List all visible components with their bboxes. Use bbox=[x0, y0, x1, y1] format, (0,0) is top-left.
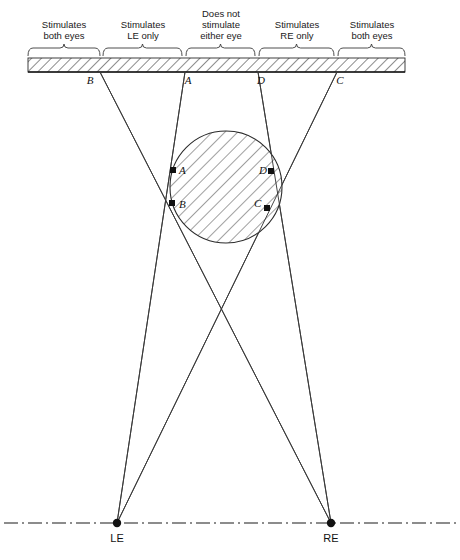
occluder-point-label-C: C bbox=[254, 197, 262, 209]
occluder-point-label-D: D bbox=[258, 164, 267, 176]
zone-5-label-line1: Stimulates bbox=[350, 19, 395, 30]
zone-4-label-line2: RE only bbox=[280, 30, 314, 41]
occluder-point-dot-A bbox=[170, 167, 176, 173]
screen-point-label-C: C bbox=[336, 74, 344, 86]
brace-zone-4 bbox=[259, 44, 334, 56]
eye-node-LE bbox=[113, 519, 121, 527]
brace-zone-5 bbox=[338, 44, 405, 56]
zone-3-label-line3: either eye bbox=[200, 30, 242, 41]
zone-2-label-line2: LE only bbox=[127, 30, 159, 41]
eye-label-RE: RE bbox=[323, 532, 338, 544]
zone-brace-group bbox=[28, 44, 405, 56]
sight-line-LE-to-A bbox=[117, 72, 185, 523]
zone-5-label-line2: both eyes bbox=[351, 30, 392, 41]
zone-2-label-line1: Stimulates bbox=[121, 19, 166, 30]
screen-point-label-B: B bbox=[87, 74, 94, 86]
brace-zone-2 bbox=[103, 44, 182, 56]
screen-point-group: BADC bbox=[87, 74, 345, 86]
eye-node-RE bbox=[327, 519, 335, 527]
brace-zone-3 bbox=[186, 44, 255, 56]
occluder-disc bbox=[170, 131, 282, 243]
zone-3-label-line2: stimulate bbox=[202, 19, 240, 30]
diagram-svg: Stimulatesboth eyesStimulatesLE onlyDoes… bbox=[0, 0, 460, 560]
zone-label-group: Stimulatesboth eyesStimulatesLE onlyDoes… bbox=[42, 8, 395, 41]
occluder-point-dot-D bbox=[268, 168, 274, 174]
screen-hatch-fill bbox=[28, 58, 405, 72]
occluder-disc-hatch bbox=[170, 131, 282, 243]
occluder-point-dot-C bbox=[264, 205, 270, 211]
figure-canvas: Stimulatesboth eyesStimulatesLE onlyDoes… bbox=[0, 0, 460, 560]
zone-1-label-line1: Stimulates bbox=[42, 19, 87, 30]
occluder-point-dot-B bbox=[169, 200, 175, 206]
sight-line-RE-to-D bbox=[258, 72, 331, 523]
zone-1-label-line2: both eyes bbox=[43, 30, 84, 41]
occluding-screen bbox=[28, 58, 405, 72]
zone-3-label-line1: Does not bbox=[202, 8, 240, 19]
screen-point-label-D: D bbox=[256, 74, 265, 86]
zone-4-label-line1: Stimulates bbox=[275, 19, 320, 30]
occluder-point-label-A: A bbox=[178, 164, 186, 176]
screen-point-label-A: A bbox=[184, 74, 192, 86]
eye-label-LE: LE bbox=[110, 532, 123, 544]
occluder-point-label-B: B bbox=[179, 198, 186, 210]
brace-zone-1 bbox=[28, 44, 100, 56]
